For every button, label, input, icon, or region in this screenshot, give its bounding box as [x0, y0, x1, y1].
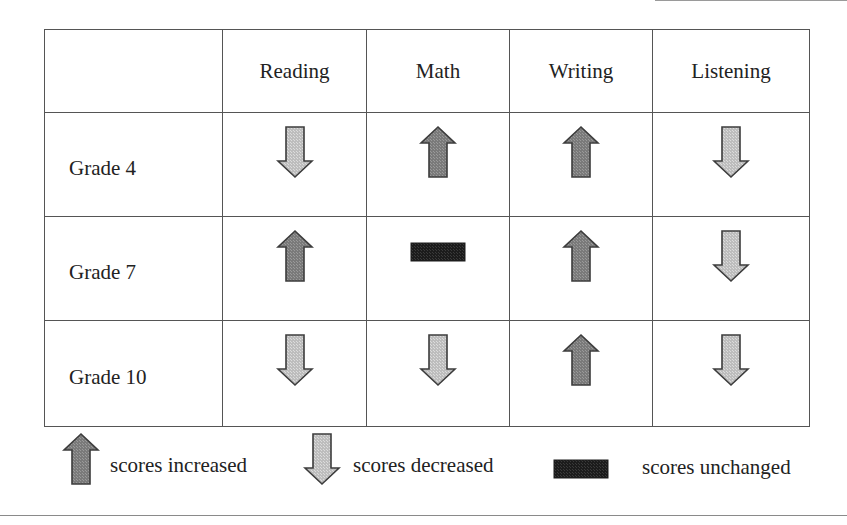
cell-writing [510, 217, 653, 321]
arrow-up-icon [510, 125, 652, 179]
table-row: Grade 7 [45, 217, 810, 321]
legend-label: scores decreased [353, 453, 494, 477]
cell-math [367, 113, 510, 217]
arrow-down-icon [653, 333, 809, 387]
legend-label: scores increased [110, 453, 247, 477]
bottom-rule [0, 515, 847, 516]
column-header-reading: Reading [223, 30, 367, 113]
arrow-up-icon [62, 432, 100, 486]
arrow-up-icon [367, 125, 509, 179]
legend-item-decreased: scores decreased [303, 432, 494, 486]
legend-item-increased: scores increased [62, 432, 247, 486]
arrow-down-icon [653, 125, 809, 179]
column-header-writing: Writing [510, 30, 653, 113]
corner-cell [45, 30, 223, 113]
arrow-down-icon [223, 333, 366, 387]
cell-listening [653, 217, 810, 321]
row-header: Grade 7 [45, 217, 223, 321]
bar-icon [552, 458, 610, 480]
arrow-down-icon [303, 432, 341, 486]
score-change-table: Reading Math Writing Listening Grade 4Gr… [44, 29, 810, 427]
row-header: Grade 10 [45, 321, 223, 427]
cell-writing [510, 113, 653, 217]
cell-reading [223, 113, 367, 217]
cell-reading [223, 321, 367, 427]
cell-writing [510, 321, 653, 427]
legend-item-unchanged: scores unchanged [552, 432, 791, 480]
cell-listening [653, 321, 810, 427]
arrow-up-icon [223, 229, 366, 283]
table-row: Grade 4 [45, 113, 810, 217]
cell-math [367, 217, 510, 321]
header-row: Reading Math Writing Listening [45, 30, 810, 113]
arrow-down-icon [367, 333, 509, 387]
bar-icon [367, 241, 509, 263]
column-header-math: Math [367, 30, 510, 113]
cell-reading [223, 217, 367, 321]
cell-math [367, 321, 510, 427]
top-rule [655, 0, 847, 1]
arrow-down-icon [223, 125, 366, 179]
legend: scores increased scores decreased scores… [0, 432, 847, 512]
column-header-listening: Listening [653, 30, 810, 113]
arrow-up-icon [510, 333, 652, 387]
cell-listening [653, 113, 810, 217]
row-header: Grade 4 [45, 113, 223, 217]
arrow-down-icon [653, 229, 809, 283]
arrow-up-icon [510, 229, 652, 283]
table-row: Grade 10 [45, 321, 810, 427]
legend-label: scores unchanged [642, 455, 791, 479]
